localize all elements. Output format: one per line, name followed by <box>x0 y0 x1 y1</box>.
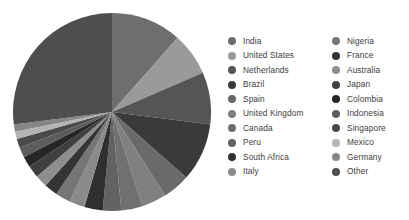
legend-item-label: India <box>243 37 262 46</box>
pie-slice-group <box>13 13 211 211</box>
legend-item-label: Colombia <box>347 95 383 104</box>
legend-item[interactable]: Brazil <box>228 78 332 93</box>
pie-slice <box>13 13 112 124</box>
legend-swatch-icon <box>228 168 236 176</box>
legend-item-label: Japan <box>347 80 370 89</box>
legend-item-label: Mexico <box>347 138 374 147</box>
legend-swatch-icon <box>332 81 340 89</box>
legend-swatch-icon <box>228 124 236 132</box>
legend-swatch-icon <box>332 66 340 74</box>
legend-swatch-icon <box>228 153 236 161</box>
legend-item[interactable]: Netherlands <box>228 63 332 78</box>
legend-item-label: Nigeria <box>347 37 374 46</box>
legend-item-label: Australia <box>347 66 380 75</box>
legend-swatch-icon <box>228 37 236 45</box>
legend-item[interactable]: Japan <box>332 78 409 93</box>
legend-item[interactable]: Other <box>332 165 409 180</box>
pie-chart-figure: IndiaUnited StatesNetherlandsBrazilSpain… <box>0 0 409 220</box>
pie-chart-plot-area <box>13 13 211 211</box>
legend-column-2: NigeriaFranceAustraliaJapanColombiaIndon… <box>332 34 409 186</box>
pie-svg <box>13 13 211 211</box>
legend-item[interactable]: South Africa <box>228 150 332 165</box>
legend-item[interactable]: Australia <box>332 63 409 78</box>
legend-item[interactable]: Singapore <box>332 121 409 136</box>
legend-item[interactable]: Nigeria <box>332 34 409 49</box>
legend-item-label: Peru <box>243 138 261 147</box>
legend-item-label: Singapore <box>347 124 386 133</box>
legend-swatch-icon <box>332 37 340 45</box>
legend-item-label: United Kingdom <box>243 109 303 118</box>
legend-swatch-icon <box>332 52 340 60</box>
legend-item-label: Netherlands <box>243 66 289 75</box>
legend-item[interactable]: Germany <box>332 150 409 165</box>
legend-item[interactable]: Peru <box>228 136 332 151</box>
legend-swatch-icon <box>228 66 236 74</box>
legend-item[interactable]: Colombia <box>332 92 409 107</box>
legend-item-label: Brazil <box>243 80 264 89</box>
legend-item-label: United States <box>243 51 294 60</box>
legend-swatch-icon <box>228 95 236 103</box>
legend-item[interactable]: United Kingdom <box>228 107 332 122</box>
legend-item-label: Germany <box>347 153 382 162</box>
legend-column-1: IndiaUnited StatesNetherlandsBrazilSpain… <box>228 34 332 186</box>
legend-item-label: Spain <box>243 95 265 104</box>
legend-item-label: Indonesia <box>347 109 384 118</box>
legend-item-label: South Africa <box>243 153 289 162</box>
legend-swatch-icon <box>228 52 236 60</box>
legend-item-label: Italy <box>243 167 259 176</box>
legend-swatch-icon <box>228 139 236 147</box>
legend-item[interactable]: Mexico <box>332 136 409 151</box>
legend-item-label: Other <box>347 167 368 176</box>
legend-swatch-icon <box>332 139 340 147</box>
legend-item[interactable]: Italy <box>228 165 332 180</box>
legend-item[interactable]: Spain <box>228 92 332 107</box>
legend-item[interactable]: Indonesia <box>332 107 409 122</box>
legend-swatch-icon <box>332 168 340 176</box>
legend-item[interactable]: United States <box>228 49 332 64</box>
legend-item[interactable]: Canada <box>228 121 332 136</box>
chart-legend: IndiaUnited StatesNetherlandsBrazilSpain… <box>228 34 409 186</box>
legend-swatch-icon <box>228 110 236 118</box>
legend-swatch-icon <box>332 153 340 161</box>
legend-swatch-icon <box>332 95 340 103</box>
legend-item[interactable]: France <box>332 49 409 64</box>
legend-item-label: France <box>347 51 373 60</box>
legend-swatch-icon <box>332 124 340 132</box>
legend-item[interactable]: India <box>228 34 332 49</box>
legend-swatch-icon <box>228 81 236 89</box>
legend-item-label: Canada <box>243 124 273 133</box>
legend-swatch-icon <box>332 110 340 118</box>
